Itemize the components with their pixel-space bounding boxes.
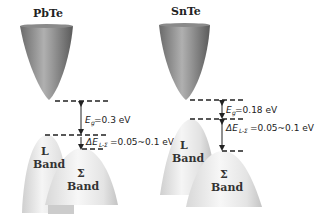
offset-value: =0.05~0.1 eV (110, 137, 175, 147)
band-structure-diagram: PbTe L Band Σ Band E g =0.3 eV ΔE L-Σ =0… (0, 0, 321, 224)
diagram-canvas: PbTe L Band Σ Band E g =0.3 eV ΔE L-Σ =0… (0, 0, 321, 224)
gap-annotation: E g =0.3 eV (85, 115, 131, 127)
panel-title: PbTe (33, 7, 63, 20)
offset-symbol: ΔE (225, 123, 238, 133)
sigma-band-name: Σ (77, 167, 85, 180)
sigma-band-label: Band (67, 180, 99, 193)
panel-snte: SnTe L Band Σ Band E g =0.18 eV ΔE L-Σ =… (159, 5, 315, 207)
sigma-band-label: Band (211, 181, 243, 194)
offset-subscript: L-Σ (99, 141, 108, 148)
offset-annotation: ΔE L-Σ =0.05~0.1 eV (85, 137, 175, 148)
l-band-name: L (180, 139, 188, 152)
l-band-label: Band (172, 152, 204, 165)
sigma-band-name: Σ (220, 168, 228, 181)
l-band-label: Band (33, 158, 65, 171)
offset-symbol: ΔE (85, 137, 98, 147)
panel-pbte: PbTe L Band Σ Band E g =0.3 eV ΔE L-Σ =0… (20, 7, 175, 214)
conduction-band-cone (20, 26, 73, 100)
offset-subscript: L-Σ (239, 127, 248, 134)
l-band-name: L (41, 145, 49, 158)
gap-annotation: E g =0.18 eV (226, 105, 278, 117)
gap-value: =0.3 eV (94, 115, 131, 125)
offset-value: =0.05~0.1 eV (250, 123, 315, 133)
conduction-band-cone (159, 25, 210, 100)
panel-title: SnTe (171, 5, 201, 18)
gap-value: =0.18 eV (235, 105, 278, 115)
offset-annotation: ΔE L-Σ =0.05~0.1 eV (225, 123, 315, 134)
